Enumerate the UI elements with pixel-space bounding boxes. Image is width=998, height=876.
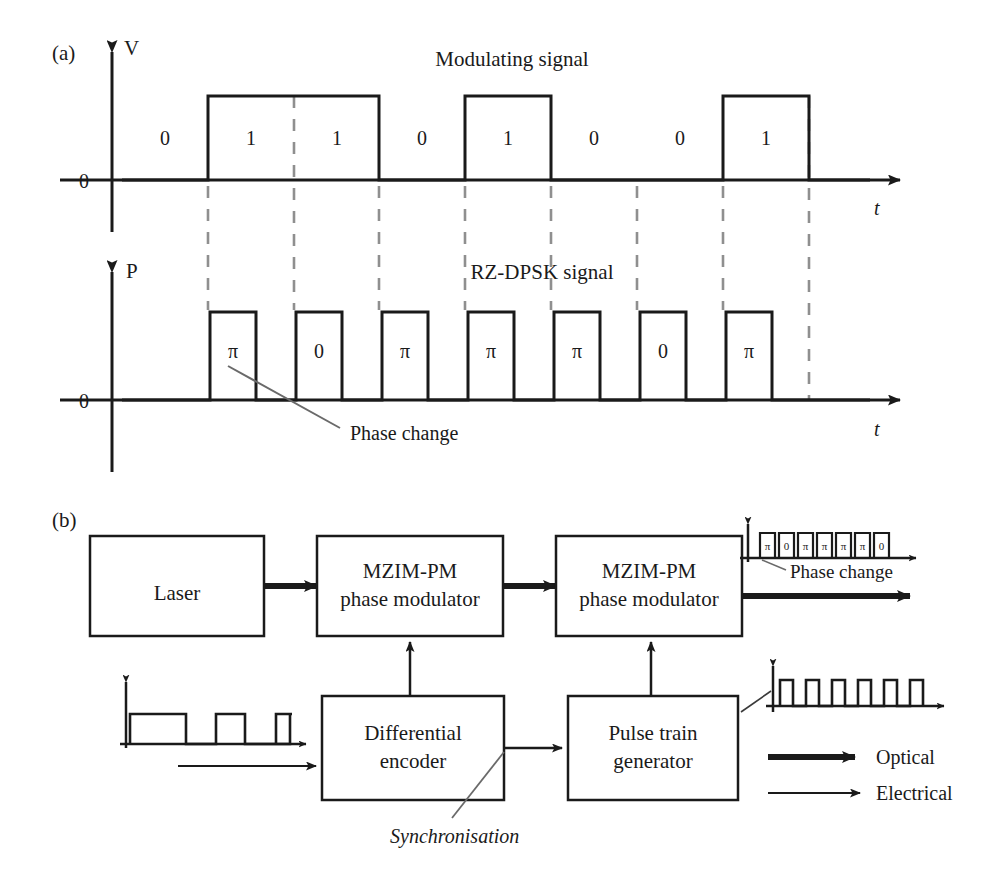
origin-label-rz: 0 [79,390,89,412]
phase-label-2: π [400,340,410,362]
bit-label-2: 1 [332,127,342,149]
figure-root: (a) V t 0 0 [0,0,998,876]
figure-svg: (a) V t 0 0 [0,0,998,876]
output-phase-labels: π 0 π π π π 0 [765,540,885,552]
origin-label-a: 0 [79,170,89,192]
block-mzim-pm-2-line2: phase modulator [579,587,718,611]
modulating-waveform-path [122,96,870,180]
bit-label-5: 0 [589,127,599,149]
block-laser[interactable]: Laser [90,536,264,636]
legend-optical-label: Optical [876,746,935,769]
phase-label-4: π [572,340,582,362]
phase-change-annotation: Phase change [350,422,458,445]
output-phase-change-leader [762,560,786,570]
bit-label-6: 0 [675,127,685,149]
block-differential-encoder-line1: Differential [364,721,462,745]
output-phase-6: 0 [879,540,885,552]
output-phase-4: π [841,540,847,552]
block-differential-encoder-line2: encoder [380,749,446,773]
input-waveform-path-a [130,714,290,744]
bit-label-3: 0 [417,127,427,149]
block-differential-encoder[interactable]: Differential encoder [322,696,504,800]
output-phase-change-annotation: Phase change [790,561,893,582]
output-phase-3: π [822,540,828,552]
legend-electrical-label: Electrical [876,782,953,804]
block-mzim-pm-1[interactable]: MZIM-PM phase modulator [317,536,503,636]
rz-dpsk-title: RZ-DPSK signal [471,260,614,284]
output-phase-5: π [860,540,866,552]
synchronisation-label: Synchronisation [390,825,519,848]
t-axis-label: t [874,197,880,219]
block-laser-label: Laser [154,581,201,605]
input-data-waveform-mini [120,682,316,766]
phase-label-3: π [486,340,496,362]
pulse-train-leader [741,691,771,712]
phase-labels: π 0 π π π 0 π [228,340,754,362]
modulating-signal-chart: V t 0 0 1 1 0 [60,36,900,400]
block-mzim-pm-1-line2: phase modulator [340,587,479,611]
p-axis-label: P [126,259,138,283]
legend: Optical Electrical [768,746,953,804]
bit-label-7: 1 [761,127,771,149]
bit-label-0: 0 [160,127,170,149]
phase-change-leader [228,366,340,428]
phase-label-0: π [228,340,238,362]
input-waveform-helper [216,714,290,744]
phase-label-1: 0 [314,340,324,362]
bit-label-1: 1 [246,127,256,149]
block-pulse-train-generator[interactable]: Pulse train generator [568,696,738,800]
block-mzim-pm-2-line1: MZIM-PM [602,559,697,583]
phase-label-6: π [744,340,754,362]
block-mzim-pm-2[interactable]: MZIM-PM phase modulator [556,536,742,636]
block-pulse-train-generator-line1: Pulse train [608,721,698,745]
modulating-signal-title: Modulating signal [435,47,589,71]
pulse-train-waveform-mini [741,666,944,712]
panel-a-label: (a) [52,41,75,65]
panel-b-label: (b) [52,508,77,532]
output-phase-2: π [803,540,809,552]
transmitter-block-diagram: Laser MZIM-PM phase modulator MZIM-PM ph… [90,524,953,848]
v-axis-label: V [124,36,139,60]
rz-dpsk-chart: P t 0 RZ-DPSK signal π 0 π π π 0 π Phase… [60,259,900,472]
output-waveform-mini: π 0 π π π π 0 Phase change [740,524,916,582]
output-phase-0: π [765,540,771,552]
pulse-train-waveform-path [780,680,923,706]
phase-label-5: 0 [658,340,668,362]
block-mzim-pm-1-line1: MZIM-PM [363,559,458,583]
block-pulse-train-generator-line2: generator [613,749,692,773]
output-phase-1: 0 [784,540,790,552]
rz-t-axis-label: t [874,418,880,440]
bit-label-4: 1 [503,127,513,149]
